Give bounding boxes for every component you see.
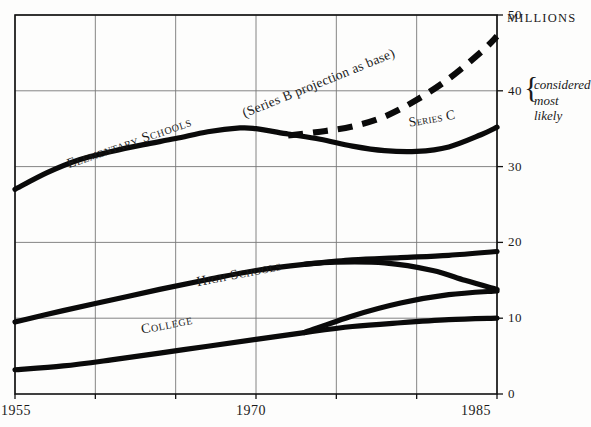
y-tick-40: 40 [508,83,522,99]
chart-series-labels: Elementary SchoolsHigh SchoolsCollege(Se… [65,45,457,336]
note-line-2: most likely [534,94,588,124]
annotation-series-c-note: Series C [407,107,456,130]
series-label-2: High Schools [195,258,283,289]
y-axis-unit-label: MILLIONS [507,11,576,26]
x-tick-1955: 1955 [1,403,31,419]
x-tick-1970: 1970 [236,403,266,419]
y-tick-10: 10 [508,310,522,326]
x-tick-1985: 1985 [461,403,491,419]
y-tick-20: 20 [508,234,522,250]
annotation-projection-note: (Series B projection as base) [240,45,397,120]
note-line-1: considered [534,78,591,93]
y-tick-0: 0 [508,386,515,402]
series-label-0: Elementary Schools [65,114,194,171]
y-tick-30: 30 [508,159,522,175]
series-label-4: College [140,312,194,337]
